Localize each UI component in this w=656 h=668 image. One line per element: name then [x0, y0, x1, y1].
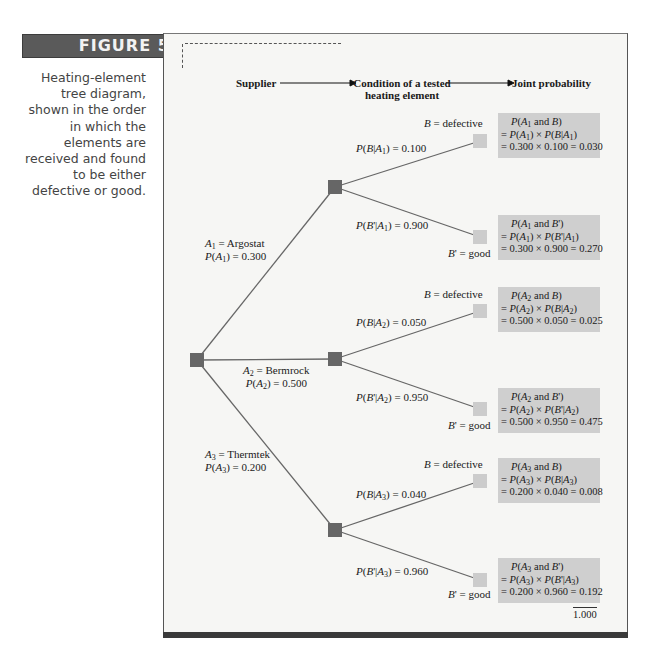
header-condition-line2: heating element — [352, 89, 452, 101]
joint-box-a2-bprime: P(A2 and B') = P(A2) × P(B'|A2) = 0.500 … — [498, 388, 600, 433]
joint-box-a3-b: P(A3 and B) = P(A3) × P(B|A3) = 0.200 × … — [498, 458, 600, 503]
root-node — [190, 353, 204, 367]
supplier-a2-label: A2 = Bermrock P(A2) = 0.500 — [243, 364, 309, 389]
outcome-good-3: B' = good — [448, 588, 490, 601]
supplier-a3-label: A3 = Thermtek P(A3) = 0.200 — [205, 448, 270, 473]
cond-bprime-a3: P(B'|A3) = 0.960 — [356, 565, 428, 578]
node-a3 — [328, 523, 342, 537]
supplier-a1-label: A1 = Argostat P(A1) = 0.300 — [205, 237, 266, 262]
header-condition-line1: Condition of a tested — [352, 77, 452, 89]
outcome-defective-2: B = defective — [424, 288, 483, 301]
outcome-good-1: B' = good — [448, 247, 490, 260]
cond-b-a1: P(B|A1) = 0.100 — [356, 142, 426, 155]
header-joint: Joint probability — [512, 77, 591, 89]
header-supplier: Supplier — [236, 77, 276, 89]
joint-box-a2-b: P(A2 and B) = P(A2) × P(B|A2) = 0.500 × … — [498, 287, 600, 332]
joint-box-a1-bprime: P(A1 and B') = P(A1) × P(B'|A1) = 0.300 … — [498, 215, 600, 260]
leaf-nodes — [473, 134, 487, 587]
outcome-good-2: B' = good — [448, 419, 490, 432]
joint-box-a1-b: P(A1 and B) = P(A1) × P(B|A1) = 0.300 × … — [498, 113, 600, 158]
node-a1 — [328, 180, 342, 194]
outcome-defective-3: B = defective — [424, 458, 483, 471]
cond-bprime-a2: P(B'|A2) = 0.950 — [356, 391, 428, 404]
node-a2 — [328, 352, 342, 366]
joint-box-a3-bprime: P(A3 and B') = P(A3) × P(B'|A3) = 0.200 … — [498, 558, 600, 603]
cond-b-a3: P(B|A3) = 0.040 — [356, 488, 426, 501]
cond-b-a2: P(B|A2) = 0.050 — [356, 316, 426, 329]
joint-total: 1.000 — [573, 607, 597, 620]
outcome-defective-1: B = defective — [424, 117, 483, 130]
cond-bprime-a1: P(B'|A1) = 0.900 — [356, 219, 428, 232]
header-condition: Condition of a tested heating element — [352, 77, 452, 101]
